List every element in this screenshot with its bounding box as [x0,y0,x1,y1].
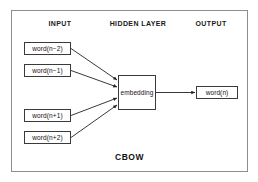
column-header-input: INPUT [22,19,98,28]
figure-caption: CBOW [11,152,248,162]
input-node-word-n-plus-1: word(n+1) [24,109,71,122]
input-node-word-n-minus-1: word(n−1) [24,64,71,77]
cbow-diagram: INPUT HIDDEN LAYER OUTPUT word(n−2) word… [0,0,258,182]
column-header-hidden-layer: HIDDEN LAYER [98,19,178,28]
output-node-word-n: word(n) [196,86,238,99]
input-node-word-n-plus-2: word(n+2) [24,131,71,144]
column-header-output: OUTPUT [180,19,242,28]
input-node-word-n-minus-2: word(n−2) [24,42,71,55]
hidden-node-embedding: embedding [118,75,156,110]
